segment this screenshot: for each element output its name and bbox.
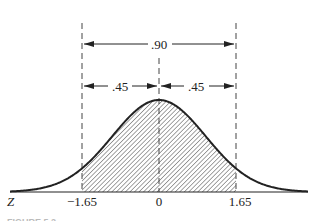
tick-label-neg-1-65: −1.65 [67,194,97,209]
normal-curve-diagram: .90 .45 .45 Z −1.65 0 1.65 FIGURE 5.2 [0,0,319,221]
z-axis-label: Z [7,194,15,209]
figure-caption: FIGURE 5.2 [7,217,56,221]
left-half-area-label: .45 [112,79,128,94]
tick-label-zero: 0 [156,194,163,209]
tick-label-pos-1-65: 1.65 [229,194,252,209]
right-half-area-label: .45 [188,79,204,94]
total-area-label: .90 [151,37,167,52]
